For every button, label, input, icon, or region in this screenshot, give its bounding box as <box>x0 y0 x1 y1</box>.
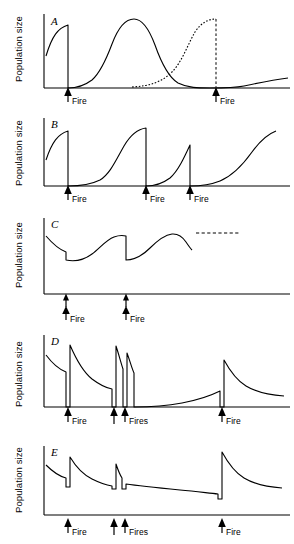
panel-letter-b: B <box>51 118 58 130</box>
fire-marker-d-3: Fires <box>121 407 148 426</box>
y-axis-label: Population size <box>13 447 24 513</box>
fire-marker-c-label-2: Fire <box>122 306 145 324</box>
fire-label-e-fires: Fires <box>129 527 148 537</box>
fire-label-b-2: Fire <box>150 194 165 204</box>
panel-b: Population size B Fire Fire Fire <box>0 108 294 208</box>
curve-a-dotted <box>132 19 216 87</box>
fire-marker-e-2 <box>110 518 118 535</box>
fire-label-a-1: Fire <box>72 96 87 106</box>
fire-marker-e-4: Fire <box>218 518 241 537</box>
fire-label-b-3: Fire <box>194 194 209 204</box>
fire-marker-e-1: Fire <box>64 518 87 537</box>
fire-marker-a-2: Fire <box>212 87 235 106</box>
panel-letter-e: E <box>50 446 58 458</box>
fire-marker-c-label-1: Fire <box>62 306 85 324</box>
fire-marker-d-2 <box>110 407 118 424</box>
fire-marker-d-4: Fire <box>218 407 241 426</box>
panel-letter-a: A <box>50 15 58 27</box>
fire-label-e-4: Fire <box>226 527 241 537</box>
fire-label-d-1: Fire <box>72 416 87 426</box>
curve-e-solid <box>46 452 282 499</box>
fire-marker-c-1 <box>63 294 69 308</box>
panel-d: Population size D Fire Fires <box>0 325 294 433</box>
y-axis-label: Population size <box>13 222 24 288</box>
panel-c: Population size C <box>0 208 294 312</box>
fire-marker-e-3: Fires <box>121 518 148 537</box>
fire-marker-a-1: Fire <box>64 87 87 106</box>
fire-label-b-1: Fire <box>72 194 87 204</box>
y-axis-label: Population size <box>13 341 24 407</box>
y-axis-label: Population size <box>13 16 24 82</box>
curve-c-solid <box>46 234 192 261</box>
fire-marker-d-1: Fire <box>64 407 87 426</box>
panel-letter-c: C <box>51 218 59 230</box>
fire-label-c-1: Fire <box>70 314 85 324</box>
curve-b-solid <box>46 128 276 186</box>
fire-marker-c-2 <box>123 294 129 308</box>
panel-e: Population size E Fire Fires <box>0 433 294 544</box>
fire-label-d-fires: Fires <box>129 416 148 426</box>
y-axis-label: Population size <box>13 120 24 186</box>
fire-label-e-1: Fire <box>72 527 87 537</box>
fire-label-a-2: Fire <box>220 96 235 106</box>
fire-marker-b-1: Fire <box>64 185 87 204</box>
panel-a: Population size A Fire Fire <box>0 0 294 108</box>
panel-letter-d: D <box>50 335 59 347</box>
curve-a-solid <box>46 19 288 88</box>
fire-marker-b-2: Fire <box>142 185 165 204</box>
fire-label-d-4: Fire <box>226 416 241 426</box>
fire-label-c-2: Fire <box>130 314 145 324</box>
curve-d-solid <box>46 345 284 407</box>
fire-marker-b-3: Fire <box>186 185 209 204</box>
population-fire-response-figure: Population size A Fire Fire <box>0 0 294 544</box>
